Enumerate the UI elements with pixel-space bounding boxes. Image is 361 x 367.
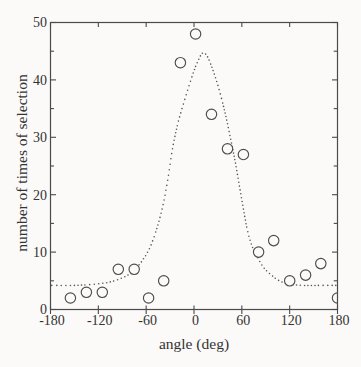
y-axis-title: number of times of selection <box>13 74 30 252</box>
x-tick-label: 0 <box>192 313 199 328</box>
data-point <box>253 247 263 257</box>
scatter-plot-figure: -180-120-6006012018001020304050 angle (d… <box>0 0 361 367</box>
y-tick-label: 50 <box>33 15 47 30</box>
data-points <box>65 29 342 303</box>
scatter-plot-canvas: -180-120-6006012018001020304050 angle (d… <box>0 0 361 367</box>
data-point <box>97 287 107 297</box>
data-point <box>129 264 139 274</box>
data-point <box>206 109 216 119</box>
data-point <box>269 235 279 245</box>
data-point <box>65 293 75 303</box>
x-axis-title: angle (deg) <box>159 335 229 353</box>
y-tick-label: 0 <box>40 302 47 317</box>
plot-frame <box>51 23 338 310</box>
data-point <box>190 29 200 39</box>
y-tick-label: 10 <box>33 245 47 260</box>
y-tick-label: 20 <box>33 188 47 203</box>
fit-curve-dotted <box>51 52 337 286</box>
x-tick-label: 180 <box>329 313 350 328</box>
data-point <box>175 58 185 68</box>
data-point <box>285 276 295 286</box>
data-point <box>159 276 169 286</box>
y-tick-label: 30 <box>33 130 47 145</box>
axes: -180-120-6006012018001020304050 <box>33 15 350 328</box>
data-point <box>81 287 91 297</box>
data-point <box>300 270 310 280</box>
x-tick-label: 60 <box>236 313 250 328</box>
data-point <box>222 144 232 154</box>
data-point <box>238 149 248 159</box>
x-tick-label: 120 <box>281 313 302 328</box>
y-tick-label: 40 <box>33 73 47 88</box>
data-point <box>316 258 326 268</box>
x-tick-label: -60 <box>138 313 157 328</box>
data-point <box>143 293 153 303</box>
data-point <box>113 264 123 274</box>
x-tick-label: -120 <box>87 313 113 328</box>
